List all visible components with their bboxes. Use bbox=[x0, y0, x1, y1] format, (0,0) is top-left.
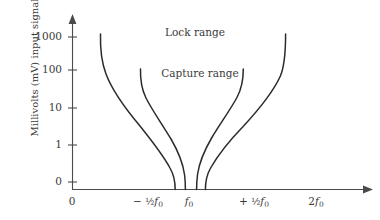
curve-lock-range-right bbox=[205, 34, 285, 190]
x-tick-f-subscript: 0 bbox=[158, 200, 163, 209]
x-tick-half-fraction-right: ½ bbox=[251, 196, 260, 207]
x-tick-label-0: 0 bbox=[58, 196, 86, 207]
x-tick-label-2f0: 2f0 bbox=[296, 196, 336, 209]
x-tick-f-subscript-2f0: 0 bbox=[319, 200, 324, 209]
y-tick-label-1000: 1000 bbox=[18, 31, 62, 42]
y-axis-arrow-icon bbox=[69, 14, 77, 24]
x-tick-two-prefix: 2 bbox=[308, 195, 315, 207]
x-tick-f0-subscript: 0 bbox=[189, 200, 194, 209]
curve-capture-range-left bbox=[140, 69, 185, 190]
x-tick-half-fraction: ½ bbox=[145, 196, 154, 207]
y-tick-label-1: 1 bbox=[18, 139, 62, 150]
x-tick-minus-sign: − bbox=[133, 195, 145, 207]
x-tick-label-plus-half-f0: + ½f0 bbox=[228, 196, 280, 209]
y-tick-label-0: 0 bbox=[18, 176, 62, 187]
curve-capture-range-right bbox=[197, 69, 244, 190]
annotation-capture-range: Capture range bbox=[140, 68, 260, 79]
x-axis-arrow-icon bbox=[363, 186, 373, 194]
pll-lock-capture-range-chart: Millivolts (mV) input signal 1000 100 10… bbox=[0, 0, 380, 220]
curve-lock-range-left bbox=[100, 34, 175, 190]
x-tick-label-f0: f0 bbox=[174, 196, 204, 209]
y-tick-label-100: 100 bbox=[18, 64, 62, 75]
y-tick-label-10: 10 bbox=[18, 102, 62, 113]
x-tick-plus-sign: + bbox=[239, 195, 251, 207]
x-tick-label-0-text: 0 bbox=[69, 195, 76, 207]
x-tick-f-subscript-right: 0 bbox=[264, 200, 269, 209]
x-tick-label-minus-half-f0: − ½f0 bbox=[122, 196, 174, 209]
annotation-lock-range: Lock range bbox=[140, 27, 250, 38]
